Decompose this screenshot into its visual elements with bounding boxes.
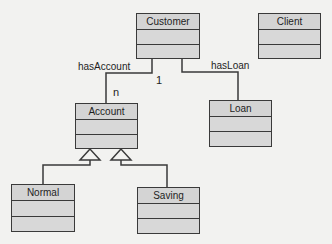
attributes-compartment bbox=[138, 204, 199, 219]
class-name: Account bbox=[76, 104, 137, 120]
normal-generalization-line bbox=[43, 160, 90, 184]
class-name: Normal bbox=[12, 185, 74, 201]
class-client[interactable]: Client bbox=[258, 13, 321, 59]
attributes-compartment bbox=[210, 117, 271, 132]
attributes-compartment bbox=[76, 120, 137, 135]
operations-compartment bbox=[259, 45, 320, 59]
operations-compartment bbox=[76, 135, 137, 149]
class-name: Saving bbox=[138, 188, 199, 204]
saving-generalization-line bbox=[121, 160, 167, 187]
multiplicity-one-label: 1 bbox=[156, 74, 162, 86]
class-loan[interactable]: Loan bbox=[209, 100, 272, 147]
operations-compartment bbox=[210, 132, 271, 146]
inheritance-arrow-icon bbox=[80, 149, 100, 160]
operations-compartment bbox=[137, 45, 199, 59]
operations-compartment bbox=[12, 217, 74, 232]
class-name: Client bbox=[259, 14, 320, 30]
class-customer[interactable]: Customer bbox=[136, 13, 200, 59]
attributes-compartment bbox=[12, 201, 74, 217]
multiplicity-n-label: n bbox=[113, 86, 119, 98]
attributes-compartment bbox=[137, 30, 199, 45]
uml-diagram-canvas: Customer Client Account Loan Normal Savi… bbox=[0, 0, 332, 244]
inheritance-arrow-icon bbox=[111, 149, 131, 160]
attributes-compartment bbox=[259, 30, 320, 45]
class-normal[interactable]: Normal bbox=[11, 184, 75, 232]
has-loan-label: hasLoan bbox=[211, 60, 249, 71]
class-name: Customer bbox=[137, 14, 199, 30]
operations-compartment bbox=[138, 219, 199, 233]
has-account-label: hasAccount bbox=[78, 61, 130, 72]
class-account[interactable]: Account bbox=[75, 103, 138, 149]
class-saving[interactable]: Saving bbox=[137, 187, 200, 234]
class-name: Loan bbox=[210, 101, 271, 117]
